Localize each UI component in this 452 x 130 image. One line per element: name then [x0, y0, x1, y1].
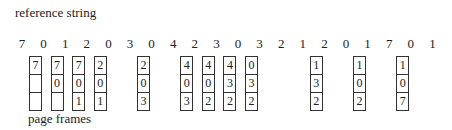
reference-digit: 7 — [16, 36, 28, 52]
page-frame-cell: 0 — [354, 74, 365, 92]
page-frame-cell: 1 — [73, 92, 84, 110]
reference-digit: 4 — [167, 36, 179, 52]
page-frame-cell: 1 — [354, 57, 365, 74]
reference-digit: 0 — [146, 36, 158, 52]
page-frame-cell: 3 — [224, 74, 235, 92]
page-frames-label: page frames — [28, 111, 91, 127]
page-frame-cell: 7 — [397, 92, 408, 110]
reference-digit: 0 — [102, 36, 114, 52]
page-frame-cell — [30, 74, 41, 92]
page-frame-column: 432 — [223, 56, 236, 111]
reference-digit: 0 — [405, 36, 417, 52]
page-frame-column: 132 — [310, 56, 323, 111]
reference-digit: 0 — [232, 36, 244, 52]
reference-digit: 7 — [383, 36, 395, 52]
page-frame-cell: 0 — [73, 74, 84, 92]
page-frame-cell: 0 — [397, 74, 408, 92]
page-frame-cell: 3 — [311, 74, 322, 92]
reference-digit: 2 — [81, 36, 93, 52]
page-frame-cell: 2 — [224, 92, 235, 110]
reference-digit: 3 — [254, 36, 266, 52]
reference-digit: 3 — [210, 36, 222, 52]
page-frame-cell: 4 — [181, 57, 192, 74]
page-frame-cell: 2 — [95, 57, 106, 74]
page-frame-cell — [30, 92, 41, 110]
page-frame-column: 70 — [51, 56, 64, 111]
page-frame-cell: 0 — [95, 74, 106, 92]
reference-digit: 0 — [38, 36, 50, 52]
page-frame-cell: 1 — [311, 57, 322, 74]
page-frame-column: 403 — [180, 56, 193, 111]
page-frame-cell: 2 — [354, 92, 365, 110]
page-frame-cell: 0 — [203, 74, 214, 92]
reference-digit: 2 — [275, 36, 287, 52]
page-frame-cell: 7 — [30, 57, 41, 74]
page-frame-cell: 3 — [181, 92, 192, 110]
page-frame-cell: 0 — [181, 74, 192, 92]
reference-digit: 1 — [362, 36, 374, 52]
page-frame-cell: 3 — [246, 74, 257, 92]
reference-digit: 3 — [124, 36, 136, 52]
reference-digit: 2 — [318, 36, 330, 52]
page-frame-cell: 2 — [203, 92, 214, 110]
reference-digit: 1 — [297, 36, 309, 52]
diagram-title: reference string — [15, 5, 96, 21]
reference-digit: 1 — [426, 36, 438, 52]
page-frame-cell: 2 — [311, 92, 322, 110]
page-frame-column: 701 — [72, 56, 85, 111]
page-frame-cell: 2 — [138, 57, 149, 74]
page-frame-cell: 0 — [52, 74, 63, 92]
reference-digit: 1 — [59, 36, 71, 52]
page-frame-cell: 4 — [224, 57, 235, 74]
page-frame-cell: 2 — [246, 92, 257, 110]
page-frame-column: 203 — [137, 56, 150, 111]
page-frame-cell: 7 — [73, 57, 84, 74]
page-frame-column: 032 — [245, 56, 258, 111]
page-frame-column: 7 — [29, 56, 42, 111]
page-frame-column: 107 — [396, 56, 409, 111]
page-frame-column: 201 — [94, 56, 107, 111]
page-frame-column: 402 — [202, 56, 215, 111]
page-frame-cell: 0 — [246, 57, 257, 74]
page-frame-cell: 7 — [52, 57, 63, 74]
page-frame-cell: 1 — [397, 57, 408, 74]
reference-digit: 0 — [340, 36, 352, 52]
reference-digit: 2 — [189, 36, 201, 52]
page-frame-cell: 4 — [203, 57, 214, 74]
page-frame-cell: 0 — [138, 74, 149, 92]
page-frame-column: 102 — [353, 56, 366, 111]
page-frame-cell: 3 — [138, 92, 149, 110]
page-frame-cell — [52, 92, 63, 110]
page-frame-cell: 1 — [95, 92, 106, 110]
